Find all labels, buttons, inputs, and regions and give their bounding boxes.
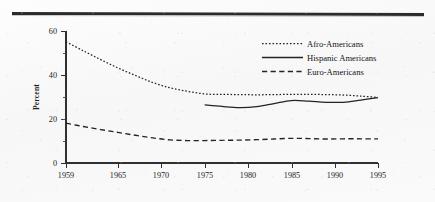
series-line-hispanic-americans <box>205 98 378 108</box>
x-tick-label-1965: 1965 <box>110 171 126 180</box>
chart-canvas: 0 20 40 60 Percent 1959 1965 1970 1975 <box>0 0 435 202</box>
x-tick-label-1985: 1985 <box>284 171 300 180</box>
x-tick-label-1980: 1980 <box>240 171 256 180</box>
line-chart-figure: 0 20 40 60 Percent 1959 1965 1970 1975 <box>0 0 435 202</box>
x-tick-label-1970: 1970 <box>153 171 169 180</box>
chart-legend: Afro-Americans Hispanic Americans Euro-A… <box>262 39 377 77</box>
x-tick-label-1995: 1995 <box>370 171 386 180</box>
y-axis-title: Percent <box>32 84 41 110</box>
legend-label-euro-americans: Euro-Americans <box>307 67 364 77</box>
y-tick-label-0: 0 <box>53 159 57 168</box>
x-tick-label-1959: 1959 <box>58 171 74 180</box>
y-tick-label-60: 60 <box>49 27 57 36</box>
legend-label-afro-americans: Afro-Americans <box>307 39 364 49</box>
y-tick-label-20: 20 <box>49 115 57 124</box>
y-tick-label-40: 40 <box>49 71 57 80</box>
x-tick-label-1990: 1990 <box>327 171 343 180</box>
legend-label-hispanic-americans: Hispanic Americans <box>307 53 377 63</box>
x-tick-label-1975: 1975 <box>197 171 213 180</box>
figure-page: 0 20 40 60 Percent 1959 1965 1970 1975 <box>0 0 435 202</box>
series-line-euro-americans <box>66 123 378 140</box>
x-axis-ticks <box>66 163 378 168</box>
